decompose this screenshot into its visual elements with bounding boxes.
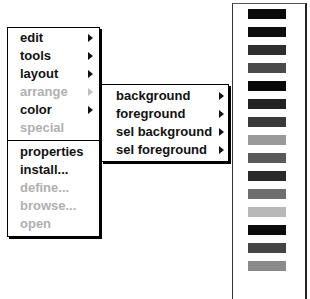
submenu-arrow-icon (219, 92, 224, 100)
submenu-arrow-icon (219, 146, 224, 154)
color-swatch[interactable] (248, 207, 286, 217)
color-swatch[interactable] (248, 27, 286, 37)
menu-item-label: foreground (116, 106, 185, 121)
submenu-arrow-icon (88, 52, 93, 60)
submenu-arrow-icon (88, 106, 93, 114)
menu-separator (8, 140, 99, 141)
color-swatch[interactable] (248, 9, 286, 19)
menu-item-label: color (20, 102, 52, 117)
color-palette-panel (232, 3, 307, 299)
color-swatch[interactable] (248, 135, 286, 145)
menu-item-layout[interactable]: layout (8, 65, 99, 83)
submenu-arrow-icon (219, 128, 224, 136)
menu-item-label: properties (20, 144, 84, 159)
menu-item-special: special (8, 119, 99, 137)
submenu-arrow-icon (219, 110, 224, 118)
color-swatch[interactable] (248, 171, 286, 181)
menu-item-label: install... (20, 162, 68, 177)
menu-item-label: browse... (20, 198, 76, 213)
menu-item-label: special (20, 120, 64, 135)
menu-item-label: arrange (20, 84, 68, 99)
submenu-item-foreground[interactable]: foreground (102, 105, 228, 123)
color-swatch[interactable] (248, 117, 286, 127)
menu-item-open: open (8, 215, 99, 233)
color-swatch[interactable] (248, 153, 286, 163)
menu-item-label: open (20, 216, 51, 231)
color-swatch[interactable] (248, 81, 286, 91)
menu-item-properties[interactable]: properties (8, 143, 99, 161)
submenu-arrow-icon (88, 70, 93, 78)
menu-item-label: sel foreground (116, 142, 207, 157)
color-swatch[interactable] (248, 99, 286, 109)
color-submenu: background foreground sel background sel… (101, 84, 229, 162)
main-menu: edit tools layout arrange color special … (7, 27, 100, 237)
menu-item-install[interactable]: install... (8, 161, 99, 179)
menu-item-label: layout (20, 66, 58, 81)
submenu-item-sel-background[interactable]: sel background (102, 123, 228, 141)
menu-item-browse: browse... (8, 197, 99, 215)
submenu-arrow-icon (88, 88, 93, 96)
menu-item-label: background (116, 88, 190, 103)
menu-item-label: edit (20, 30, 43, 45)
submenu-item-sel-foreground[interactable]: sel foreground (102, 141, 228, 159)
menu-item-color[interactable]: color (8, 101, 99, 119)
color-swatch[interactable] (248, 63, 286, 73)
menu-item-tools[interactable]: tools (8, 47, 99, 65)
menu-item-label: tools (20, 48, 51, 63)
color-swatch[interactable] (248, 189, 286, 199)
menu-item-label: sel background (116, 124, 212, 139)
color-swatch[interactable] (248, 261, 286, 271)
submenu-arrow-icon (88, 34, 93, 42)
menu-item-arrange: arrange (8, 83, 99, 101)
menu-item-label: define... (20, 180, 69, 195)
submenu-item-background[interactable]: background (102, 87, 228, 105)
color-swatch[interactable] (248, 225, 286, 235)
menu-item-edit[interactable]: edit (8, 29, 99, 47)
menu-item-define: define... (8, 179, 99, 197)
color-swatch[interactable] (248, 45, 286, 55)
color-swatch[interactable] (248, 243, 286, 253)
